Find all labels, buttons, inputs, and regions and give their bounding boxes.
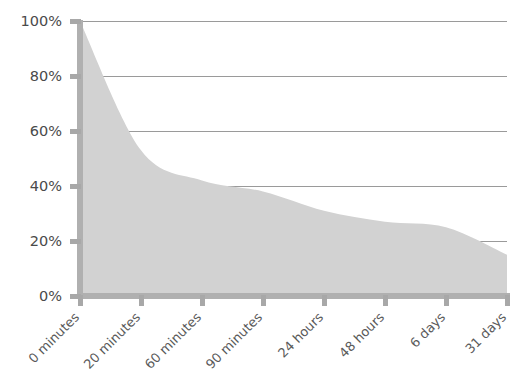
y-tick-label-40: 40% xyxy=(30,178,62,194)
forgetting-curve-chart: 0%20%40%60%80%100% 0 minutes20 minutes60… xyxy=(0,0,531,387)
y-tick-label-100: 100% xyxy=(21,13,62,29)
y-tick-label-20: 20% xyxy=(30,233,62,249)
y-tick-label-80: 80% xyxy=(30,68,62,84)
chart-canvas: 0%20%40%60%80%100% 0 minutes20 minutes60… xyxy=(0,0,531,387)
y-tick-label-60: 60% xyxy=(30,123,62,139)
y-tick-label-0: 0% xyxy=(39,288,62,304)
